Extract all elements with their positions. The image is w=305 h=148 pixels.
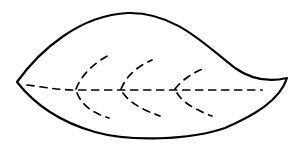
leaf-icon — [0, 0, 305, 148]
vein-lower-3 — [177, 93, 212, 116]
vein-upper-2 — [121, 60, 152, 89]
leaf-outline — [17, 13, 287, 138]
leaf-drawing: leaf line drawing — [0, 0, 305, 148]
vein-lower-1 — [77, 93, 109, 118]
vein-lower-2 — [123, 93, 160, 116]
midrib-dashed — [27, 85, 262, 90]
vein-upper-3 — [175, 68, 205, 89]
vein-upper-1 — [76, 54, 111, 89]
